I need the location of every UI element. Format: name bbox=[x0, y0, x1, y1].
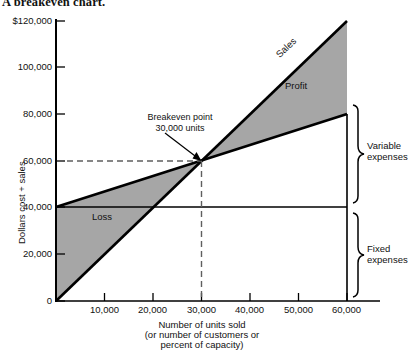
y-axis-title: Dollars cost + sales bbox=[16, 161, 27, 244]
x-axis-title-line3: percent of capacity) bbox=[111, 339, 293, 350]
breakeven-leader-arrow bbox=[165, 133, 202, 161]
fixed-expenses-label-line2: expenses bbox=[367, 254, 408, 265]
y-tick-label-20000: 20,000 bbox=[0, 249, 52, 259]
y-tick-label-0: 0 bbox=[0, 296, 52, 306]
fixed-expenses-label-line1: Fixed bbox=[367, 243, 390, 254]
breakeven-annotation-line1: Breakeven point bbox=[131, 112, 229, 123]
variable-expenses-brace-shape bbox=[353, 105, 364, 203]
y-tick-label-120000: $120,000 bbox=[0, 16, 52, 26]
fixed-expenses-brace-shape bbox=[353, 213, 364, 297]
loss-region-label: Loss bbox=[92, 212, 112, 222]
breakeven-annotation-line2: 30,000 units bbox=[131, 123, 229, 134]
x-tick-label-60000: 60,000 bbox=[316, 305, 377, 315]
profit-region-label: Profit bbox=[285, 81, 307, 91]
variable-expenses-label-line2: expenses bbox=[367, 151, 408, 162]
variable-expenses-label-line1: Variable bbox=[367, 140, 401, 151]
y-tick-label-80000: 80,000 bbox=[0, 109, 52, 119]
y-tick-label-100000: 100,000 bbox=[0, 62, 52, 72]
x-tick-marks bbox=[105, 293, 348, 301]
